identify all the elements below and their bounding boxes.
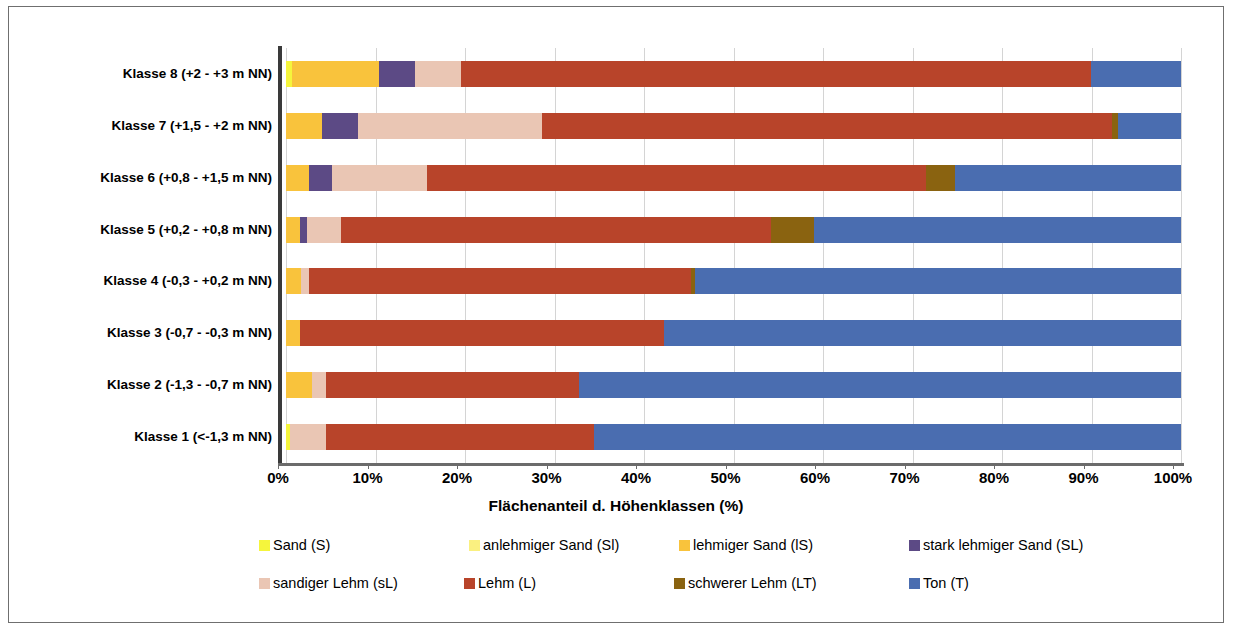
x-tick-label: 80% [959, 469, 1029, 486]
legend-item[interactable]: Sand (S) [259, 537, 330, 553]
bar-segment [358, 113, 541, 139]
x-tick-label: 90% [1049, 469, 1119, 486]
x-tick-label: 40% [601, 469, 671, 486]
bar-row [286, 61, 1181, 87]
bar-segment [542, 113, 1112, 139]
legend-swatch-icon [909, 540, 920, 551]
gridline-70 [913, 48, 914, 463]
bar-segment [326, 424, 594, 450]
bar-segment [926, 165, 956, 191]
x-axis-title: Flächenanteil d. Höhenklassen (%) [9, 497, 1223, 515]
bar-segment [286, 113, 322, 139]
legend-item[interactable]: sandiger Lehm (sL) [259, 575, 398, 591]
y-tick-label: Klasse 6 (+0,8 - +1,5 m NN) [17, 171, 272, 185]
x-tick-mark [368, 463, 369, 469]
legend-swatch-icon [259, 540, 270, 551]
y-tick-label: Klasse 8 (+2 - +3 m NN) [17, 67, 272, 81]
x-tick-label: 50% [691, 469, 761, 486]
x-tick-label: 20% [422, 469, 492, 486]
bar-segment [814, 217, 1181, 243]
legend-label: sandiger Lehm (sL) [273, 575, 398, 591]
bar-row [286, 113, 1181, 139]
bar-segment [286, 372, 312, 398]
legend-row-top: Sand (S)anlehmiger Sand (Sl)lehmiger San… [259, 537, 1209, 567]
plot-area [278, 48, 1181, 463]
bar-segment [427, 165, 926, 191]
bar-segment [1118, 113, 1181, 139]
x-tick-mark [994, 463, 995, 469]
bar-row [286, 320, 1181, 346]
x-tick-mark [547, 463, 548, 469]
x-tick-mark [457, 463, 458, 469]
bar-segment [379, 61, 415, 87]
x-tick-mark [636, 463, 637, 469]
gridline-60 [823, 48, 824, 463]
bar-segment [332, 165, 428, 191]
legend-label: stark lehmiger Sand (SL) [923, 537, 1083, 553]
legend-swatch-icon [679, 540, 690, 551]
gridline-40 [644, 48, 645, 463]
gridline-90 [1092, 48, 1093, 463]
legend-item[interactable]: Ton (T) [909, 575, 969, 591]
legend-label: Sand (S) [273, 537, 330, 553]
gridline-20 [465, 48, 466, 463]
x-tick-label: 0% [243, 469, 313, 486]
legend-label: schwerer Lehm (LT) [688, 575, 817, 591]
y-tick-label: Klasse 7 (+1,5 - +2 m NN) [17, 119, 272, 133]
bar-segment [309, 268, 691, 294]
legend-swatch-icon [464, 578, 475, 589]
gridline-80 [1002, 48, 1003, 463]
gridline-10 [376, 48, 377, 463]
bar-segment [695, 268, 1181, 294]
bar-segment [307, 217, 341, 243]
bar-row [286, 372, 1181, 398]
x-tick-label: 70% [870, 469, 940, 486]
legend-label: lehmiger Sand (lS) [693, 537, 813, 553]
bar-segment [312, 372, 326, 398]
bar-row [286, 217, 1181, 243]
x-tick-mark [278, 463, 279, 469]
bar-segment [300, 320, 663, 346]
value-axis [278, 463, 1184, 466]
chart-frame: Klasse 8 (+2 - +3 m NN)Klasse 7 (+1,5 - … [8, 6, 1224, 623]
legend-item[interactable]: lehmiger Sand (lS) [679, 537, 813, 553]
bar-segment [579, 372, 1181, 398]
bar-segment [326, 372, 578, 398]
y-tick-label: Klasse 3 (-0,7 - -0,3 m NN) [17, 326, 272, 340]
bar-segment [286, 268, 301, 294]
legend-swatch-icon [469, 540, 480, 551]
y-tick-label: Klasse 5 (+0,2 - +0,8 m NN) [17, 223, 272, 237]
legend-swatch-icon [909, 578, 920, 589]
y-tick-label: Klasse 2 (-1,3 - -0,7 m NN) [17, 378, 272, 392]
bar-segment [664, 320, 1181, 346]
bar-segment [771, 217, 814, 243]
bar-segment [309, 165, 331, 191]
legend-swatch-icon [674, 578, 685, 589]
legend-item[interactable]: schwerer Lehm (LT) [674, 575, 817, 591]
x-tick-label: 100% [1138, 469, 1208, 486]
bar-segment [461, 61, 1092, 87]
bar-row [286, 424, 1181, 450]
bar-segment [322, 113, 359, 139]
bar-row [286, 165, 1181, 191]
gridline-30 [555, 48, 556, 463]
chart-legend: Sand (S)anlehmiger Sand (Sl)lehmiger San… [259, 537, 1209, 607]
x-tick-mark [1173, 463, 1174, 469]
legend-label: anlehmiger Sand (Sl) [483, 537, 619, 553]
y-tick-label: Klasse 1 (<-1,3 m NN) [17, 430, 272, 444]
bar-segment [286, 217, 300, 243]
x-tick-label: 10% [333, 469, 403, 486]
legend-item[interactable]: stark lehmiger Sand (SL) [909, 537, 1083, 553]
legend-item[interactable]: Lehm (L) [464, 575, 536, 591]
bar-segment [286, 320, 300, 346]
x-tick-mark [1084, 463, 1085, 469]
legend-item[interactable]: anlehmiger Sand (Sl) [469, 537, 619, 553]
bar-segment [286, 165, 309, 191]
bar-segment [1091, 61, 1181, 87]
y-tick-label: Klasse 4 (-0,3 - +0,2 m NN) [17, 274, 272, 288]
bar-segment [300, 217, 307, 243]
x-tick-label: 60% [780, 469, 850, 486]
category-axis [278, 46, 282, 465]
bar-segment [415, 61, 461, 87]
bars-container [286, 48, 1181, 463]
